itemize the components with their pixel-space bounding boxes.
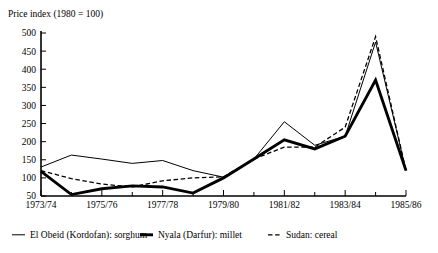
legend-label: Nyala (Darfur): millet bbox=[158, 230, 242, 241]
price-index-line-chart: Price index (1980 = 100) 501001502002503… bbox=[0, 0, 438, 253]
y-tick-label: 250 bbox=[22, 119, 37, 129]
chart-legend: El Obeid (Kordofan): sorghumNyala (Darfu… bbox=[12, 230, 338, 241]
chart-title: Price index (1980 = 100) bbox=[8, 9, 103, 20]
x-tick-label: 1975/76 bbox=[86, 200, 117, 210]
chart-figure: Price index (1980 = 100) 501001502002503… bbox=[0, 0, 438, 253]
y-tick-label: 350 bbox=[22, 83, 37, 93]
x-tick-label: 1983/84 bbox=[330, 200, 361, 210]
y-tick-label: 450 bbox=[22, 47, 37, 57]
y-tick-label: 400 bbox=[22, 65, 37, 75]
legend-label: El Obeid (Kordofan): sorghum bbox=[30, 230, 148, 241]
y-tick-label: 150 bbox=[22, 155, 37, 165]
data-series-group bbox=[41, 37, 406, 195]
y-tick-label: 100 bbox=[22, 173, 37, 183]
legend-label: Sudan: cereal bbox=[286, 230, 338, 240]
y-axis-tick-labels: 50100150200250300350400450500 bbox=[22, 28, 37, 201]
x-tick-label: 1979/80 bbox=[208, 200, 239, 210]
x-tick-label: 1985/86 bbox=[390, 200, 421, 210]
x-tick-label: 1981/82 bbox=[269, 200, 300, 210]
y-tick-label: 300 bbox=[22, 101, 37, 111]
x-tick-label: 1973/74 bbox=[25, 200, 56, 210]
y-tick-label: 500 bbox=[22, 28, 37, 38]
x-tick-label: 1977/78 bbox=[147, 200, 178, 210]
y-tick-label: 200 bbox=[22, 137, 37, 147]
x-axis-tick-labels: 1973/741975/761977/781979/801981/821983/… bbox=[25, 200, 421, 210]
series-line bbox=[41, 37, 406, 187]
